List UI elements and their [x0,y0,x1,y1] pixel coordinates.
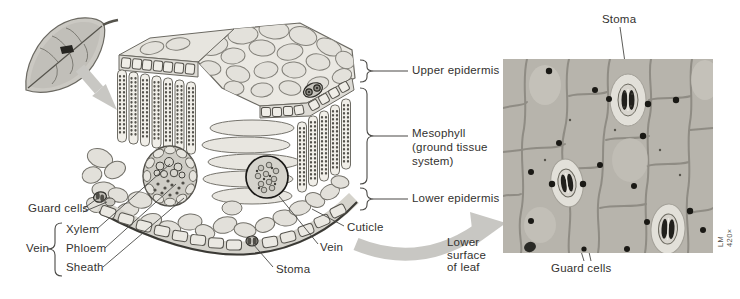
lower-surface-label: Lower surface of leaf [447,236,486,274]
mesophyll-label-line2: (ground tissue [412,140,488,154]
mesophyll-label-line1: Mesophyll [412,126,488,140]
micrograph-stoma-top [610,74,646,126]
micrograph-stoma-label: Stoma [602,13,636,26]
vein-right-label: Vein [320,241,343,254]
sheath-label: Sheath [66,261,104,274]
stoma-label: Stoma [276,263,310,276]
lower-surface-label-line2: surface [447,249,486,262]
vein-label: Vein [26,242,49,255]
leaf-structure-figure: Upper epidermis Mesophyll (ground tissue… [0,0,740,299]
upper-epidermis-label: Upper epidermis [412,64,499,77]
mesophyll-label-line3: system) [412,154,488,168]
cuticle-label: Cuticle [347,221,384,234]
palisade-mesophyll-left [118,70,196,154]
leaf-block-illustration [80,20,358,255]
circled-vein [246,156,288,198]
lower-surface-label-line1: Lower [447,236,486,249]
phloem-label: Phloem [66,242,106,255]
brace-lower-epidermis [360,188,408,210]
brace-mesophyll [360,88,408,184]
mesophyll-label: Mesophyll (ground tissue system) [412,126,488,168]
brace-vein [48,223,62,276]
micrograph-guard-cells-label: Guard cells [551,262,611,275]
lower-epidermis-label: Lower epidermis [412,192,499,205]
arrow-leaf-to-block-icon [80,68,117,110]
xylem-label: Xylem [66,223,99,236]
micrograph-image [503,59,719,255]
figure-artwork [0,0,740,299]
brace-upper-epidermis [360,60,408,82]
guard-cells-label: Guard cells [28,202,88,215]
magnification-label: LM 420× [716,223,734,247]
lower-surface-label-line3: of leaf [447,261,486,274]
lower-surface-stoma [246,236,258,246]
leaf-inset-illustration [26,18,118,92]
large-vein-cross-section [143,146,197,206]
